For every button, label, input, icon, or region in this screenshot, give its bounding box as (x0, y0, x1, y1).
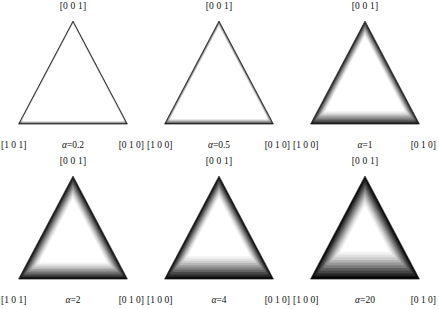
alpha-value-label: =0.2 (67, 140, 84, 150)
inverse-pole-figure-panel-grid: [0 0 1][1 0 1]α=0.2[0 1 0][0 0 1][1 0 0]… (0, 0, 439, 309)
corner-label-top: [0 0 1] (292, 156, 438, 166)
panel-bottom-labels: [1 0 1]α=0.2[0 1 0] (0, 137, 146, 150)
corner-label-top: [0 0 1] (146, 156, 292, 166)
alpha-value-label: =20 (360, 295, 375, 305)
corner-label-top: [0 0 1] (146, 1, 292, 11)
contour-plot (155, 17, 283, 127)
alpha-value-label: =0.5 (213, 140, 230, 150)
corner-label-bottom-right: [0 1 0] (411, 140, 436, 150)
corner-label-bottom-right: [0 1 0] (265, 295, 290, 305)
panel-bottom-labels: [1 0 1]α=2[0 1 0] (0, 292, 146, 305)
panel-bottom-labels: [1 0 0]α=4[0 1 0] (146, 292, 292, 305)
panel-bottom-labels: [1 0 0]α=0.5[0 1 0] (146, 137, 292, 150)
alpha-value-label: =4 (216, 295, 226, 305)
panel-bottom-labels: [1 0 0]α=1[0 1 0] (292, 137, 438, 150)
panel-grid: [0 0 1][1 0 1]α=0.2[0 1 0][0 0 1][1 0 0]… (0, 0, 439, 309)
corner-label-top: [0 0 1] (0, 156, 146, 166)
ipf-panel-alpha-0p2: [0 0 1][1 0 1]α=0.2[0 1 0] (0, 0, 146, 154)
contour-plot (9, 17, 137, 127)
corner-label-bottom-right: [0 1 0] (119, 140, 144, 150)
contour-plot (301, 172, 429, 282)
corner-label-top: [0 0 1] (0, 1, 146, 11)
ipf-panel-alpha-20: [0 0 1][1 0 0]α=20[0 1 0] (292, 155, 438, 309)
alpha-value-label: =2 (70, 295, 80, 305)
contour-plot (9, 172, 137, 282)
ipf-panel-alpha-2: [0 0 1][1 0 1]α=2[0 1 0] (0, 155, 146, 309)
corner-label-bottom-right: [0 1 0] (119, 295, 144, 305)
ipf-panel-alpha-0p5: [0 0 1][1 0 0]α=0.5[0 1 0] (146, 0, 292, 154)
corner-label-bottom-right: [0 1 0] (411, 295, 436, 305)
corner-label-top: [0 0 1] (292, 1, 438, 11)
contour-plot (301, 17, 429, 127)
ipf-panel-alpha-1: [0 0 1][1 0 0]α=1[0 1 0] (292, 0, 438, 154)
panel-bottom-labels: [1 0 0]α=20[0 1 0] (292, 292, 438, 305)
alpha-value-label: =1 (362, 140, 372, 150)
corner-label-bottom-right: [0 1 0] (265, 140, 290, 150)
contour-plot (155, 172, 283, 282)
ipf-panel-alpha-4: [0 0 1][1 0 0]α=4[0 1 0] (146, 155, 292, 309)
